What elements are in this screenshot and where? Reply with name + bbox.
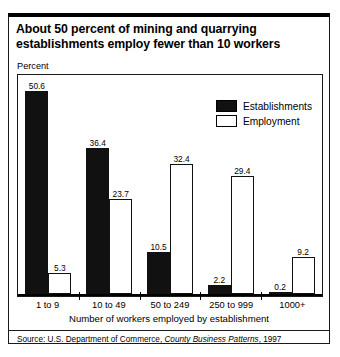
bar-wrap: 36.4 xyxy=(86,148,109,294)
legend-label-employment: Employment xyxy=(243,116,300,127)
chart-figure: About 50 percent of mining and quarrying… xyxy=(0,0,340,357)
bar-est[interactable]: 10.5 xyxy=(147,252,170,294)
bar-wrap: 9.2 xyxy=(292,257,315,294)
bar-value-label: 9.2 xyxy=(297,247,309,257)
bar-wrap: 2.2 xyxy=(208,285,231,294)
legend-item-establishments: Establishments xyxy=(216,100,312,112)
bar-value-label: 0.2 xyxy=(274,282,286,292)
legend-swatch-establishments-icon xyxy=(216,100,237,112)
bar-wrap: 23.7 xyxy=(109,199,132,294)
chart-card: About 50 percent of mining and quarrying… xyxy=(8,13,330,344)
x-axis-category-label: 1 to 9 xyxy=(17,300,78,310)
legend-item-employment: Employment xyxy=(216,115,312,127)
y-axis-unit-label: Percent xyxy=(17,61,49,71)
bar-value-label: 23.7 xyxy=(113,189,129,199)
x-axis-category-label: 1000+ xyxy=(262,300,323,310)
source-note: Source: U.S. Department of Commerce, Cou… xyxy=(17,335,281,344)
bar-emp[interactable]: 29.4 xyxy=(231,176,254,294)
legend-label-establishments: Establishments xyxy=(243,101,312,112)
bar-group: 50.65.3 xyxy=(18,75,79,294)
source-publication: County Business Patterns xyxy=(164,335,258,344)
bar-est[interactable]: 50.6 xyxy=(25,91,48,294)
x-axis-title: Number of workers employed by establishm… xyxy=(9,313,329,324)
bar-est[interactable]: 2.2 xyxy=(208,285,231,294)
x-axis-category-labels: 1 to 910 to 4950 to 249250 to 9991000+ xyxy=(17,300,323,310)
bar-wrap: 5.3 xyxy=(48,273,71,294)
x-axis-category-label: 250 to 999 xyxy=(201,300,262,310)
bar-wrap: 32.4 xyxy=(170,164,193,294)
bar-wrap: 50.6 xyxy=(25,91,48,294)
source-divider xyxy=(9,330,329,331)
bar-emp[interactable]: 32.4 xyxy=(170,164,193,294)
chart-legend: Establishments Employment xyxy=(216,100,312,127)
source-prefix: Source: U.S. Department of Commerce, xyxy=(17,335,164,344)
bar-wrap: 10.5 xyxy=(147,252,170,294)
bar-value-label: 10.5 xyxy=(150,242,166,252)
bar-est[interactable]: 36.4 xyxy=(86,148,109,294)
bar-value-label: 2.2 xyxy=(214,275,226,285)
x-axis-category-label: 50 to 249 xyxy=(139,300,200,310)
bar-group: 36.423.7 xyxy=(79,75,140,294)
source-suffix: , 1997 xyxy=(259,335,282,344)
chart-title: About 50 percent of mining and quarrying… xyxy=(16,22,316,51)
bar-value-label: 5.3 xyxy=(54,263,66,273)
bar-value-label: 29.4 xyxy=(234,166,250,176)
bar-group: 10.532.4 xyxy=(140,75,201,294)
bar-emp[interactable]: 9.2 xyxy=(292,257,315,294)
bar-value-label: 36.4 xyxy=(90,138,106,148)
bar-value-label: 50.6 xyxy=(29,81,45,91)
bar-value-label: 32.4 xyxy=(173,154,189,164)
x-axis-category-label: 10 to 49 xyxy=(78,300,139,310)
bar-wrap: 29.4 xyxy=(231,176,254,294)
bar-emp[interactable]: 23.7 xyxy=(109,199,132,294)
x-axis-baseline xyxy=(18,294,322,296)
plot-area: 50.65.336.423.710.532.42.229.40.29.2 Est… xyxy=(17,74,323,297)
bar-emp[interactable]: 5.3 xyxy=(48,273,71,294)
legend-swatch-employment-icon xyxy=(216,115,237,127)
